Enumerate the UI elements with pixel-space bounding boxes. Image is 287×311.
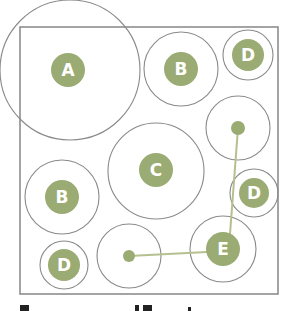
badge-label: C	[150, 160, 162, 180]
badge-label: B	[56, 187, 69, 207]
node-badge-a: A	[51, 53, 85, 87]
circle-packing-diagram: ABDCBDDE	[0, 0, 287, 311]
node-badge-d1: D	[232, 39, 264, 71]
cropped-caption-fragment	[20, 305, 191, 311]
node-badge-d2: D	[239, 178, 269, 208]
dot-bottom-icon	[123, 250, 135, 262]
node-badge-b1: B	[164, 52, 198, 86]
connector-dot-bottom-to-E	[129, 252, 207, 256]
badge-label: A	[61, 60, 75, 80]
node-badge-b2: B	[45, 180, 79, 214]
diagram-canvas: ABDCBDDE	[0, 0, 287, 311]
badge-label: D	[241, 45, 255, 65]
badge-label: E	[217, 239, 229, 259]
badge-label: D	[57, 255, 71, 275]
node-badge-c: C	[139, 153, 173, 187]
badge-label: B	[175, 59, 188, 79]
dot-top-right-icon	[231, 121, 245, 135]
node-badge-d3: D	[48, 249, 80, 281]
badge-label: D	[247, 183, 261, 203]
node-badge-e: E	[206, 232, 240, 266]
